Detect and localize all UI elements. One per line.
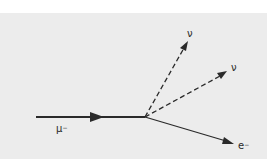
muon-decay-diagram: μ− ν ν e−	[0, 0, 267, 159]
neutrino-1-label: ν	[187, 29, 193, 39]
diagram-lines	[0, 0, 267, 159]
electron-track	[145, 117, 234, 144]
electron-label: e−	[238, 141, 249, 151]
electron-arrowhead-icon	[222, 137, 234, 144]
neutrino-2-arrowhead-icon	[217, 71, 227, 79]
muon-label: μ−	[56, 124, 67, 134]
muon-track	[36, 112, 145, 122]
neutrino-2-label: ν	[231, 63, 237, 73]
muon-arrowhead-icon	[90, 112, 104, 122]
neutrino-1-arrowhead-icon	[180, 41, 188, 51]
